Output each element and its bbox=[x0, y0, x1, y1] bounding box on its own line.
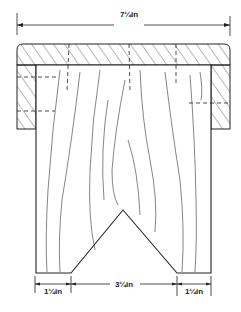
cap-top-bar bbox=[17, 44, 230, 65]
block-body bbox=[36, 65, 211, 273]
dimension-bottom-right: 1¼in bbox=[183, 287, 205, 296]
cap-left-tab bbox=[17, 65, 36, 129]
technical-drawing bbox=[0, 0, 241, 312]
dimension-bottom-middle: 3¼in bbox=[113, 280, 135, 289]
cap-right-tab bbox=[211, 65, 230, 129]
dimension-bottom-left: 1¼in bbox=[42, 287, 64, 296]
dimension-top-width: 7¼in bbox=[118, 10, 140, 19]
